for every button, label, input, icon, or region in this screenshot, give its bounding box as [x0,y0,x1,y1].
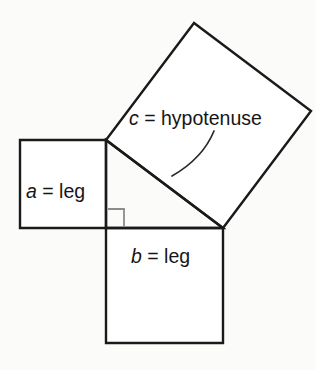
label-leg-b-separator: = [142,245,164,267]
label-leg-b: b = leg [131,245,190,267]
label-leg-a-separator: = [37,180,59,202]
label-leg-a: a = leg [26,180,85,202]
label-hypotenuse-c-word: hypotenuse [161,107,262,129]
label-leg-a-variable: a [26,180,37,202]
pythagorean-theorem-figure: a = leg b = leg c = hypotenuse [0,0,315,370]
label-hypotenuse-c: c = hypotenuse [129,107,262,129]
label-leg-a-word: leg [59,180,85,202]
right-angle-marker-icon [108,209,124,227]
label-hypotenuse-c-separator: = [139,107,161,129]
label-hypotenuse-c-variable: c [129,107,139,129]
label-leg-b-variable: b [131,245,142,267]
label-leg-b-word: leg [164,245,190,267]
pythagorean-diagram: a = leg b = leg c = hypotenuse [0,0,315,370]
